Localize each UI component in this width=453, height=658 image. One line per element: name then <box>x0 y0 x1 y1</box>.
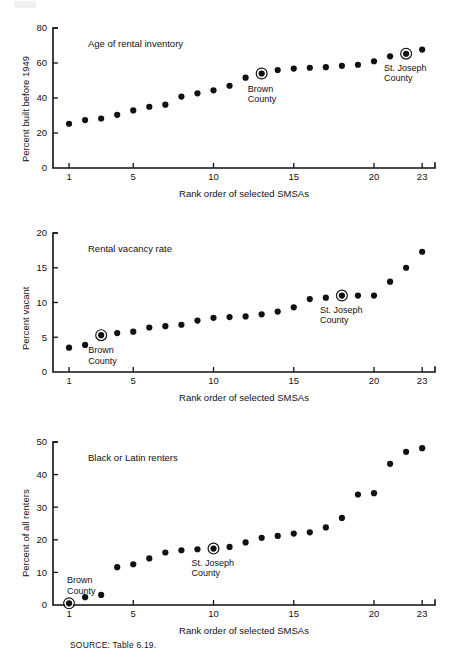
x-axis-tick-label: 5 <box>131 375 136 386</box>
y-axis-tick-label: 0 <box>42 162 47 173</box>
data-point <box>210 87 216 93</box>
y-axis-tick-label: 40 <box>36 469 47 480</box>
data-point <box>275 67 281 73</box>
data-point <box>194 90 200 96</box>
data-point <box>194 546 200 552</box>
data-point <box>243 75 249 81</box>
x-axis-tick-label: 15 <box>288 375 299 386</box>
data-point <box>323 64 329 70</box>
data-point <box>162 323 168 329</box>
y-axis-tick-label: 0 <box>42 366 47 377</box>
x-axis-tick-label: 23 <box>417 171 428 182</box>
data-point <box>146 555 152 561</box>
data-point <box>339 515 345 521</box>
data-point <box>114 112 120 118</box>
y-axis-title-3: Percent of all renters <box>20 489 31 577</box>
x-axis-tick-label: 20 <box>369 375 380 386</box>
data-point <box>66 345 72 351</box>
data-point <box>403 265 409 271</box>
source-note: SOURCE: Table 6.19. <box>70 640 156 650</box>
data-point <box>355 62 361 68</box>
data-point <box>419 249 425 255</box>
y-axis-tick-label: 5 <box>42 332 47 343</box>
y-axis-tick-label: 60 <box>36 57 47 68</box>
data-point <box>162 102 168 108</box>
data-point <box>339 292 345 298</box>
y-axis-tick-label: 10 <box>36 567 47 578</box>
chart-title-2: Rental vacancy rate <box>88 243 172 254</box>
y-axis-tick-label: 0 <box>42 599 47 610</box>
data-point <box>371 58 377 64</box>
data-point <box>178 322 184 328</box>
data-point <box>419 445 425 451</box>
data-point <box>178 94 184 100</box>
data-point <box>419 46 425 52</box>
data-point-annotation: St. Joseph County <box>384 63 427 84</box>
chart-panel-black-or-latin-renters: 010203040501510152023 Black or Latin ren… <box>0 425 453 630</box>
y-axis-title-2: Percent vacant <box>20 287 31 350</box>
y-axis-title-1: Percent built before 1949 <box>20 56 31 162</box>
page-edge-artifact <box>14 1 36 8</box>
chart-title-3: Black or Latin renters <box>88 452 178 463</box>
data-point <box>226 544 232 550</box>
data-point <box>82 117 88 123</box>
data-point <box>162 549 168 555</box>
plot-area-3: 010203040501510152023 <box>0 425 453 630</box>
data-point <box>339 63 345 69</box>
y-axis-tick-label: 20 <box>36 227 47 238</box>
y-axis-tick-label: 20 <box>36 534 47 545</box>
data-point-annotation: Brown County <box>88 345 117 366</box>
data-point <box>98 592 104 598</box>
y-axis-tick-label: 15 <box>36 262 47 273</box>
data-point <box>259 70 265 76</box>
data-point <box>130 561 136 567</box>
axis-spine <box>53 442 435 605</box>
data-point <box>130 107 136 113</box>
data-point <box>355 491 361 497</box>
y-axis-tick-label: 50 <box>36 436 47 447</box>
data-point <box>307 529 313 535</box>
figure-container: 0204060801510152023 Age of rental invent… <box>0 0 453 658</box>
x-axis-tick-label: 1 <box>66 171 71 182</box>
x-axis-tick-label: 10 <box>208 375 219 386</box>
data-point <box>210 315 216 321</box>
data-point <box>259 311 265 317</box>
data-point <box>98 332 104 338</box>
data-point <box>291 66 297 72</box>
data-point-annotation: Brown County <box>67 575 96 596</box>
data-point <box>307 65 313 71</box>
data-point <box>307 296 313 302</box>
data-point <box>114 330 120 336</box>
data-point <box>146 324 152 330</box>
x-axis-title-3: Rank order of selected SMSAs <box>53 625 435 636</box>
data-point-annotation: St. Joseph County <box>192 558 235 579</box>
data-point <box>371 490 377 496</box>
data-point <box>275 308 281 314</box>
data-point <box>146 104 152 110</box>
data-point <box>210 546 216 552</box>
data-point <box>403 449 409 455</box>
data-point <box>387 461 393 467</box>
y-axis-tick-label: 30 <box>36 502 47 513</box>
data-point <box>291 304 297 310</box>
x-axis-tick-label: 10 <box>208 171 219 182</box>
x-axis-title-1: Rank order of selected SMSAs <box>53 188 435 199</box>
y-axis-tick-label: 40 <box>36 92 47 103</box>
y-axis-tick-label: 80 <box>36 22 47 33</box>
plot-area-1: 0204060801510152023 <box>0 10 453 205</box>
data-point <box>66 121 72 127</box>
data-point-annotation: St. Joseph County <box>320 305 363 326</box>
data-point <box>243 539 249 545</box>
chart-panel-rental-vacancy-rate: 051015201510152023 Rental vacancy rate P… <box>0 215 453 410</box>
data-point <box>259 535 265 541</box>
data-point-annotation: Brown County <box>248 84 277 105</box>
data-point <box>226 314 232 320</box>
data-point <box>98 115 104 121</box>
x-axis-tick-label: 5 <box>131 171 136 182</box>
x-axis-tick-label: 20 <box>369 608 380 619</box>
x-axis-tick-label: 23 <box>417 608 428 619</box>
x-axis-tick-label: 1 <box>66 608 71 619</box>
data-point <box>243 313 249 319</box>
y-axis-tick-label: 10 <box>36 297 47 308</box>
data-point <box>114 564 120 570</box>
